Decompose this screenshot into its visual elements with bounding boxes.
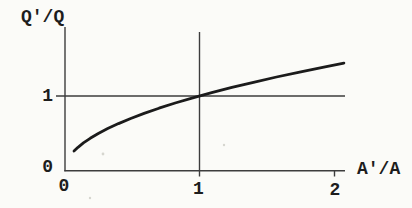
scan-speck (89, 197, 91, 199)
x-tick-label-2: 2 (330, 180, 341, 200)
figure-canvas: Q'/Q A'/A 1 0 0 1 2 (0, 0, 412, 208)
curve-series (74, 63, 344, 151)
scan-speck (223, 144, 225, 146)
chart: Q'/Q A'/A 1 0 0 1 2 (0, 0, 412, 208)
x-axis-title: A'/A (357, 159, 400, 179)
x-tick-label-0: 0 (59, 176, 70, 196)
x-tick-label-1: 1 (193, 179, 204, 199)
scan-speck (102, 153, 105, 156)
y-axis-title: Q'/Q (21, 7, 64, 27)
y-tick-label-0: 0 (42, 157, 53, 177)
y-tick-label-1: 1 (42, 86, 53, 106)
